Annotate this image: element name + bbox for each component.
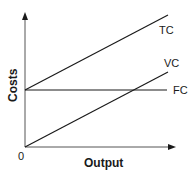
x-axis-arrow-icon xyxy=(168,144,176,150)
tc-label: TC xyxy=(159,24,174,36)
vc-label: VC xyxy=(164,57,179,69)
fc-label: FC xyxy=(173,84,188,96)
y-axis-arrow-icon xyxy=(22,12,28,20)
cost-curves-diagram: TC VC FC 0 Output Costs xyxy=(0,0,195,178)
y-axis-label: Costs xyxy=(6,68,20,102)
tc-line xyxy=(25,15,168,90)
x-axis-label: Output xyxy=(84,156,123,170)
vc-line xyxy=(25,72,168,147)
origin-label: 0 xyxy=(18,150,24,162)
